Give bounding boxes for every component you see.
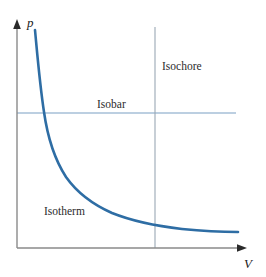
isotherm-curve (35, 30, 238, 232)
volume-axis-arrow-icon (237, 244, 247, 252)
pv-diagram-canvas: p V Isochore Isobar Isotherm (0, 0, 266, 277)
isotherm-label: Isotherm (44, 205, 85, 217)
volume-axis-label: V (244, 256, 254, 271)
pv-diagram-figure: p V Isochore Isobar Isotherm (0, 0, 266, 277)
isochore-label: Isochore (162, 60, 202, 72)
pressure-axis-label: p (26, 15, 34, 30)
isobar-label: Isobar (97, 98, 126, 110)
pressure-axis-arrow-icon (13, 19, 21, 29)
